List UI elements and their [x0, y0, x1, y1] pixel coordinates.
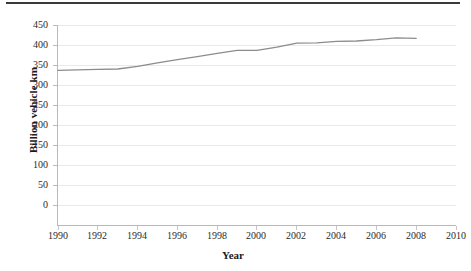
x-axis-title: Year — [0, 249, 466, 261]
data-series-line — [58, 38, 416, 70]
